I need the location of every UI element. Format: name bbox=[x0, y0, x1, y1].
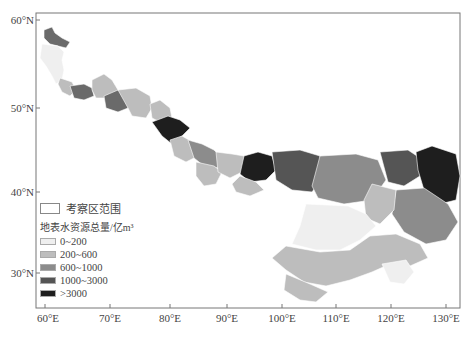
y-tick-label: 30°N bbox=[11, 267, 34, 279]
legend-item: >3000 bbox=[40, 287, 134, 300]
legend-item: 1000~3000 bbox=[40, 274, 134, 287]
x-tick-label: 120°E bbox=[377, 312, 405, 324]
legend: 考察区范围 地表水资源总量/亿m³ 0~200 200~600 600~1000… bbox=[40, 199, 134, 300]
legend-item: 600~1000 bbox=[40, 261, 134, 274]
x-tick-label: 110°E bbox=[322, 312, 349, 324]
swatch-icon bbox=[40, 277, 56, 284]
legend-item: 200~600 bbox=[40, 248, 134, 261]
boundary-swatch-icon bbox=[40, 203, 60, 214]
x-tick-label: 90°E bbox=[216, 312, 238, 324]
y-tick-label: 60°N bbox=[11, 14, 34, 26]
x-tick-label: 80°E bbox=[159, 312, 181, 324]
legend-boundary: 考察区范围 bbox=[40, 199, 134, 217]
legend-item-label: 1000~3000 bbox=[60, 275, 108, 286]
swatch-icon bbox=[40, 238, 56, 245]
legend-title: 地表水资源总量/亿m³ bbox=[40, 217, 134, 235]
y-tick-label: 50°N bbox=[11, 102, 34, 114]
swatch-icon bbox=[40, 290, 56, 297]
swatch-icon bbox=[40, 264, 56, 271]
legend-boundary-label: 考察区范围 bbox=[66, 200, 121, 216]
x-tick-label: 100°E bbox=[268, 312, 296, 324]
x-tick-label: 60°E bbox=[37, 312, 59, 324]
legend-item-label: 0~200 bbox=[60, 236, 87, 247]
legend-item-label: 600~1000 bbox=[60, 262, 102, 273]
legend-item-label: 200~600 bbox=[60, 249, 97, 260]
x-tick-label: 130°E bbox=[432, 312, 460, 324]
legend-item-label: >3000 bbox=[60, 288, 87, 299]
y-tick-label: 40°N bbox=[11, 186, 34, 198]
swatch-icon bbox=[40, 251, 56, 258]
legend-item: 0~200 bbox=[40, 235, 134, 248]
x-tick-label: 70°E bbox=[99, 312, 121, 324]
